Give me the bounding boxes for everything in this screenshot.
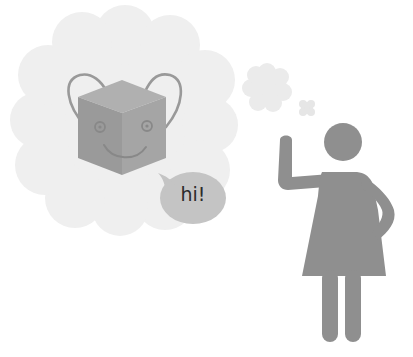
person-waving <box>278 123 395 342</box>
speech-bubble-text: hi! <box>170 183 216 205</box>
thought-cloud-small <box>299 100 315 116</box>
left-leg <box>322 270 338 342</box>
thought-cloud-medium <box>242 63 292 112</box>
right-leg <box>345 270 361 342</box>
head <box>324 123 362 161</box>
illustration-canvas <box>0 0 413 357</box>
